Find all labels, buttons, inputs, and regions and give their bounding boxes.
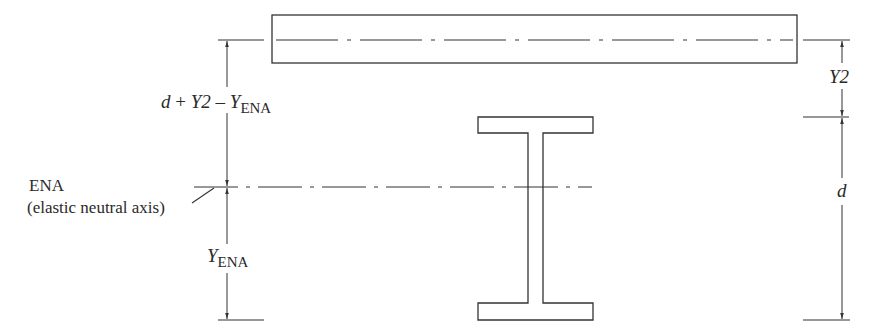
- slab-outline: [272, 15, 797, 63]
- ena-label: ENA: [29, 176, 65, 195]
- dim-label-d: d: [837, 180, 847, 201]
- ena-leader-line: [192, 188, 214, 203]
- slab: [272, 15, 797, 63]
- dim-label-y2: Y2: [829, 66, 850, 87]
- composite-section-diagram: d + Y2 – YENA YENA ENA (elastic neutral …: [0, 0, 879, 335]
- steel-i-beam: [478, 117, 593, 320]
- ena-description: (elastic neutral axis): [27, 198, 165, 217]
- dim-label-d-plus-y2-minus-yena: d + Y2 – YENA: [161, 91, 271, 116]
- dim-label-yena: YENA: [207, 245, 249, 270]
